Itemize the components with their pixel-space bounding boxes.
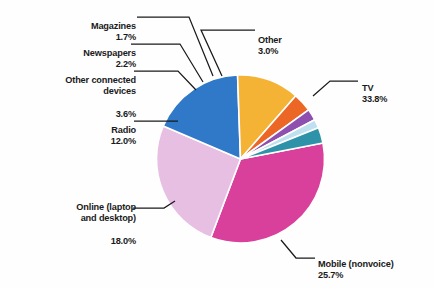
label-other-percent: 3.0% — [258, 46, 378, 57]
label-online-line1: Online (laptop — [76, 202, 136, 212]
label-tv-percent: 33.8% — [362, 94, 432, 105]
label-mobile-name: Mobile (nonvoice) — [318, 259, 394, 269]
leader-line-other — [201, 30, 255, 76]
label-online[interactable]: Online (laptop and desktop) 18.0% — [12, 191, 136, 258]
label-radio-percent: 12.0% — [26, 136, 136, 147]
label-mobile-percent: 25.7% — [318, 270, 434, 281]
label-other-connected-line1: Other connected — [65, 75, 136, 85]
leader-line-other-connected — [134, 71, 196, 90]
label-radio[interactable]: Radio 12.0% — [26, 114, 136, 159]
pie-chart-figure: Magazines 1.7% Newspapers 2.2% Other con… — [0, 0, 434, 288]
leader-line-magazines — [137, 17, 213, 76]
label-tv-name: TV — [362, 83, 373, 93]
label-online-percent: 18.0% — [12, 236, 136, 247]
label-other-name: Other — [258, 35, 282, 45]
leader-line-mobile — [281, 240, 315, 258]
label-other-connected-line2: devices — [2, 86, 136, 97]
label-other[interactable]: Other 3.0% — [258, 24, 378, 69]
label-tv[interactable]: TV 33.8% — [362, 72, 432, 117]
label-mobile[interactable]: Mobile (nonvoice) 25.7% — [318, 248, 434, 288]
label-newspapers-name: Newspapers — [83, 48, 136, 58]
leader-line-tv — [313, 81, 358, 96]
leader-line-newspapers — [131, 44, 203, 82]
pie-slice-group — [156, 75, 324, 243]
label-online-line2: and desktop) — [12, 213, 136, 224]
label-radio-name: Radio — [111, 125, 136, 135]
label-magazines-name: Magazines — [91, 21, 136, 31]
